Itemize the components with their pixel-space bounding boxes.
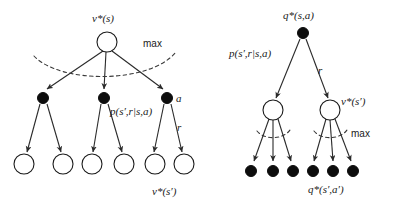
edge-action1-to-leaf2: [47, 104, 61, 152]
right-diagram-group: q*(s,a) p(s′,r|s,a) r v*(s′) max q*(s′,a…: [228, 9, 370, 196]
q-leaf-action-node-3: [288, 166, 299, 177]
right-leaf-label: q*(s′,a′): [308, 183, 344, 196]
leaf-state-node-4: [114, 154, 134, 174]
root-state-node: [97, 32, 117, 52]
q-leaf-action-node-6: [348, 166, 359, 177]
left-diagram-group: v*(s) max p(s′,r|s,a) a r v*(s′): [14, 12, 194, 198]
q-leaf-action-node-2: [268, 166, 279, 177]
q-root-action-node: [298, 28, 309, 39]
right-root-label: q*(s,a): [283, 9, 314, 22]
backup-diagram-figure: v*(s) max p(s′,r|s,a) a r v*(s′): [0, 0, 395, 205]
q-state-node-2: [320, 100, 340, 120]
left-transition-label: p(s′,r|s,a): [109, 105, 152, 118]
right-state-value-label: v*(s′): [341, 95, 366, 108]
leaf-state-node-3: [82, 154, 102, 174]
figure-svg: v*(s) max p(s′,r|s,a) a r v*(s′): [0, 0, 395, 205]
edge-qroot-to-state-1: [276, 39, 300, 98]
leaf-state-node-6: [174, 154, 194, 174]
left-action-label: a: [176, 92, 182, 104]
edge-state1-to-leaf3: [278, 119, 291, 161]
edge-state2-to-leaf4: [314, 119, 326, 161]
action-node-3: [162, 93, 173, 104]
action-node-2: [99, 93, 110, 104]
leaf-state-node-5: [145, 154, 165, 174]
edge-qroot-to-state-2: [306, 39, 328, 98]
right-transition-label: p(s′,r|s,a): [228, 47, 271, 60]
q-leaf-action-node-5: [328, 166, 339, 177]
edge-state2-to-leaf6: [335, 119, 351, 161]
edge-action3-to-leaf5: [154, 104, 164, 152]
q-leaf-action-node-4: [308, 166, 319, 177]
left-leaf-label: v*(s′): [152, 185, 177, 198]
q-state-node-1: [263, 100, 283, 120]
right-reward-label: r: [318, 64, 323, 76]
left-max-label: max: [143, 38, 162, 49]
leaf-state-node-1: [14, 154, 34, 174]
edge-root-to-action-1: [47, 51, 103, 89]
leaf-state-node-2: [53, 154, 73, 174]
action-node-1: [38, 93, 49, 104]
left-reward-label: r: [177, 121, 182, 133]
edge-action1-to-leaf1: [27, 104, 40, 152]
left-root-label: v*(s): [92, 12, 114, 25]
q-leaf-action-node-1: [246, 166, 257, 177]
edge-state2-to-leaf5: [330, 120, 333, 161]
edge-state1-to-leaf1: [254, 119, 269, 161]
right-max-label: max: [351, 128, 370, 139]
edge-action2-to-leaf3: [93, 104, 101, 152]
edge-root-to-action-3: [112, 51, 163, 89]
edge-root-to-action-2: [104, 52, 106, 89]
